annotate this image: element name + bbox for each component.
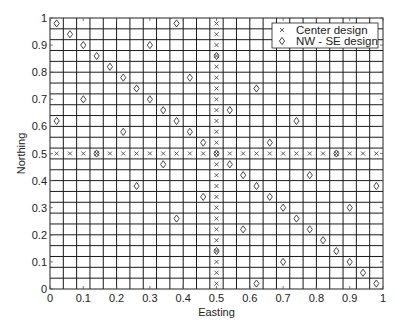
y-tick-label: 0.1	[32, 256, 47, 268]
x-tick-label: 0.9	[342, 292, 357, 304]
x-tick-label: 0	[47, 292, 53, 304]
cross-marker	[215, 130, 219, 134]
diamond-marker	[227, 161, 232, 168]
diamond-marker	[187, 128, 192, 135]
x-tick-label: 0.1	[76, 292, 91, 304]
y-tick-label: 0.5	[32, 148, 47, 160]
cross-marker	[201, 152, 205, 156]
cross-marker	[321, 152, 325, 156]
cross-marker	[121, 152, 125, 156]
cross-marker	[215, 162, 219, 166]
y-tick-label: 0.7	[32, 93, 47, 105]
diamond-marker	[174, 215, 179, 222]
cross-marker	[215, 206, 219, 210]
x-tick-label: 0.4	[176, 292, 191, 304]
cross-marker	[215, 282, 219, 286]
legend-label-nw-se-design: NW - SE design	[296, 35, 378, 47]
cross-marker	[294, 152, 298, 156]
cross-marker	[215, 227, 219, 231]
cross-marker	[108, 152, 112, 156]
diamond-marker	[134, 182, 139, 189]
diamond-marker	[320, 237, 325, 244]
diamond-marker	[294, 215, 299, 222]
diamond-marker	[307, 226, 312, 233]
x-tick-label: 0.8	[309, 292, 324, 304]
diamond-marker	[174, 20, 179, 27]
cross-marker	[215, 184, 219, 188]
diamond-marker	[201, 139, 206, 146]
y-axis-label: Northing	[15, 133, 27, 175]
x-axis-label: Easting	[198, 306, 235, 318]
y-tick-label: 1	[41, 12, 47, 24]
diamond-marker	[267, 139, 272, 146]
diamond-marker	[147, 96, 152, 103]
cross-marker	[348, 152, 352, 156]
diamond-marker	[307, 172, 312, 179]
diamond-marker	[81, 42, 86, 49]
diamond-marker	[347, 258, 352, 265]
diamond-marker	[201, 193, 206, 200]
diamond-marker	[267, 193, 272, 200]
y-tick-label: 0.9	[32, 39, 47, 51]
diamond-marker	[374, 182, 379, 189]
diamond-marker	[107, 63, 112, 70]
cross-marker	[215, 108, 219, 112]
x-tick-label: 1	[380, 292, 386, 304]
y-tick-label: 0.8	[32, 66, 47, 78]
diamond-marker	[121, 128, 126, 135]
diamond-marker	[54, 117, 59, 124]
cross-marker	[215, 195, 219, 199]
diamond-marker	[374, 280, 379, 287]
diamond-marker	[94, 52, 99, 59]
cross-marker	[215, 65, 219, 69]
diamond-marker	[67, 31, 72, 38]
cross-marker	[215, 97, 219, 101]
cross-marker	[135, 152, 139, 156]
cross-marker	[215, 141, 219, 145]
cross-marker	[308, 152, 312, 156]
x-tick-label: 0.7	[275, 292, 290, 304]
y-tick-label: 0	[41, 283, 47, 295]
diamond-marker	[161, 161, 166, 168]
cross-marker	[215, 119, 219, 123]
diamond-marker	[281, 258, 286, 265]
cross-marker	[374, 152, 378, 156]
cross-marker	[215, 43, 219, 47]
cross-marker	[175, 152, 179, 156]
cross-marker	[228, 152, 232, 156]
cross-marker	[215, 21, 219, 25]
diamond-marker	[134, 85, 139, 92]
diamond-marker	[161, 107, 166, 114]
diamond-marker	[54, 20, 59, 27]
cross-marker	[241, 152, 245, 156]
diamond-marker	[360, 269, 365, 276]
cross-marker	[268, 152, 272, 156]
x-tick-label: 0.2	[109, 292, 124, 304]
axis-ticks: 00.10.20.30.40.50.60.70.80.9100.10.20.30…	[32, 12, 386, 304]
x-tick-label: 0.3	[142, 292, 157, 304]
diamond-marker	[254, 182, 259, 189]
cross-marker	[361, 152, 365, 156]
diamond-marker	[241, 226, 246, 233]
y-tick-label: 0.4	[32, 175, 47, 187]
x-tick-label: 0.6	[242, 292, 257, 304]
cross-marker	[215, 86, 219, 90]
diamond-marker	[174, 117, 179, 124]
diamond-marker	[227, 107, 232, 114]
diamond-marker	[187, 74, 192, 81]
cross-marker	[215, 271, 219, 275]
diamond-marker	[81, 96, 86, 103]
y-tick-label: 0.6	[32, 120, 47, 132]
cross-marker	[215, 32, 219, 36]
scatter-chart: 00.10.20.30.40.50.60.70.80.9100.10.20.30…	[0, 0, 402, 331]
cross-marker	[161, 152, 165, 156]
legend: Center design NW - SE design	[272, 23, 378, 48]
x-tick-label: 0.5	[209, 292, 224, 304]
diamond-marker	[334, 247, 339, 254]
diamond-marker	[281, 204, 286, 211]
diamond-marker	[254, 85, 259, 92]
diamond-marker	[294, 117, 299, 124]
y-tick-label: 0.2	[32, 229, 47, 241]
cross-marker	[148, 152, 152, 156]
cross-marker	[215, 217, 219, 221]
